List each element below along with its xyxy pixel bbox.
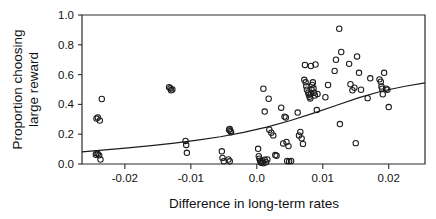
plot-box-border: [82, 15, 425, 164]
x-axis-tick-label: 0.01: [312, 172, 334, 184]
data-point-marker: [266, 96, 271, 101]
data-point-marker: [386, 104, 391, 109]
data-point-marker: [368, 76, 373, 81]
data-point-marker: [339, 49, 344, 54]
data-point-marker: [337, 26, 342, 31]
x-axis-tick-label: -0.01: [178, 172, 204, 184]
x-axis-title: Difference in long-term rates: [169, 196, 339, 211]
data-point-marker: [99, 96, 104, 101]
x-axis-tick-label: 0.0: [249, 172, 265, 184]
data-point-marker: [333, 57, 338, 62]
y-axis-tick-label: 0.4: [58, 98, 75, 110]
data-point-marker: [365, 95, 370, 100]
y-axis: 0.00.20.40.60.81.0: [58, 9, 82, 170]
plot-frame: [82, 15, 425, 164]
data-point-marker: [295, 110, 300, 115]
data-point-marker: [380, 92, 385, 97]
data-point-marker: [323, 95, 328, 100]
y-axis-title: Proportion choosing large reward: [10, 29, 41, 149]
regression-fit-curve: [82, 83, 425, 152]
data-points-layer: [93, 26, 391, 166]
data-point-marker: [279, 105, 284, 110]
data-point-marker: [381, 70, 386, 75]
y-axis-tick-label: 0.2: [58, 128, 74, 140]
y-axis-title-line-2: large reward: [26, 52, 41, 127]
scatter-plot-figure: 0.00.20.40.60.81.0 -0.02-0.010.00.010.02…: [0, 0, 436, 219]
x-axis-tick-label: 0.02: [378, 172, 400, 184]
x-axis: -0.02-0.010.00.010.02: [112, 164, 400, 184]
data-point-marker: [332, 68, 337, 73]
data-point-marker: [358, 87, 363, 92]
y-axis-tick-label: 0.6: [58, 69, 74, 81]
data-point-marker: [261, 86, 266, 91]
data-point-marker: [298, 129, 303, 134]
data-point-marker: [353, 140, 358, 145]
data-point-marker: [356, 70, 361, 75]
y-axis-tick-label: 1.0: [58, 9, 74, 21]
y-axis-tick-label: 0.8: [58, 39, 74, 51]
figure-container: 0.00.20.40.60.81.0 -0.02-0.010.00.010.02…: [0, 0, 436, 219]
data-point-marker: [337, 121, 342, 126]
data-point-marker: [346, 61, 351, 66]
data-point-marker: [325, 82, 330, 87]
data-point-marker: [255, 146, 260, 151]
y-axis-title-line-1: Proportion choosing: [10, 29, 25, 149]
y-axis-tick-label: 0.0: [58, 158, 74, 170]
data-point-marker: [262, 109, 267, 114]
data-point-marker: [354, 54, 359, 59]
data-point-marker: [219, 149, 224, 154]
data-point-marker: [220, 155, 225, 160]
data-point-marker: [302, 62, 307, 67]
data-point-marker: [184, 150, 189, 155]
data-point-marker: [280, 141, 285, 146]
data-point-marker: [300, 141, 305, 146]
x-axis-tick-label: -0.02: [112, 172, 138, 184]
